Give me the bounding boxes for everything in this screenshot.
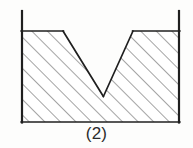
figure-container: (2)	[0, 0, 193, 148]
figure-caption: (2)	[0, 123, 193, 145]
